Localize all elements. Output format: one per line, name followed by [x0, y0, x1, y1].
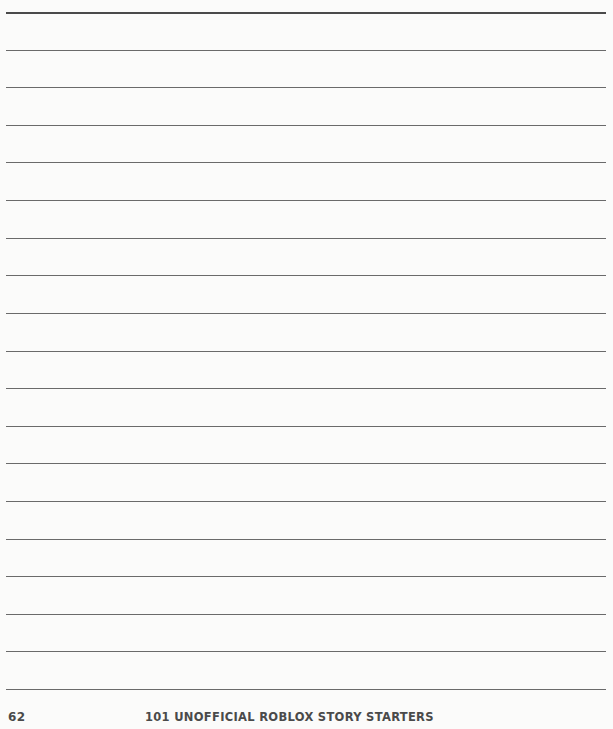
writing-line: [6, 388, 606, 389]
writing-line: [6, 501, 606, 502]
writing-line: [6, 689, 606, 690]
writing-line: [6, 426, 606, 427]
writing-line: [6, 539, 606, 540]
writing-line: [6, 651, 606, 652]
writing-line: [6, 576, 606, 577]
writing-line: [6, 275, 606, 276]
writing-line: [6, 351, 606, 352]
writing-line: [6, 50, 606, 51]
writing-line: [6, 200, 606, 201]
title-part-1: 101: [145, 710, 174, 724]
page-number: 62: [8, 710, 25, 724]
page-footer: 62 101 UNOFFICIAL ROBLOX STORY STARTERS: [0, 710, 613, 726]
writing-line: [6, 463, 606, 464]
writing-line: [6, 238, 606, 239]
book-title: 101 UNOFFICIAL ROBLOX STORY STARTERS: [145, 710, 434, 724]
title-part-3: ROBLOX STORY STARTERS: [255, 710, 434, 724]
title-part-2: UNOFFICIAL: [174, 710, 255, 724]
writing-line: [6, 12, 606, 14]
writing-line: [6, 87, 606, 88]
writing-line: [6, 313, 606, 314]
writing-line: [6, 125, 606, 126]
writing-line: [6, 614, 606, 615]
writing-line: [6, 162, 606, 163]
